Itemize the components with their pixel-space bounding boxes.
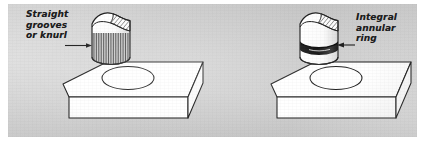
label-right-line-2: annular [356, 23, 397, 34]
label-right-line-1: Integral [356, 12, 397, 23]
straight-knurl-grooves [92, 31, 130, 66]
leader-line-left [65, 43, 92, 48]
annular-ring-pin [299, 13, 339, 65]
figure-root: Straight grooves or knurl Integral annul… [0, 0, 423, 141]
label-left-line-3: or knurl [26, 30, 68, 41]
knurled-pin [92, 13, 130, 66]
plate-hole-right [310, 67, 362, 90]
label-integral-annular-ring: Integral annular ring [356, 12, 397, 44]
base-plate-left [63, 62, 203, 118]
label-left-line-1: Straight [26, 9, 68, 20]
leader-line-right [337, 42, 355, 47]
label-left-line-2: grooves [26, 20, 68, 31]
panel-left [63, 13, 203, 118]
base-plate-right [271, 62, 411, 118]
label-straight-grooves-or-knurl: Straight grooves or knurl [26, 9, 68, 41]
label-right-line-3: ring [356, 33, 397, 44]
plate-hole-left [102, 67, 154, 90]
